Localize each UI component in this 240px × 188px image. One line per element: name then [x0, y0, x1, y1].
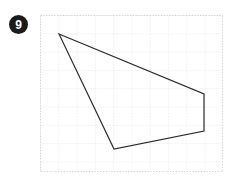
question-number-label: 9 — [15, 19, 22, 31]
dotted-grid — [40, 15, 223, 172]
grid-panel — [40, 15, 223, 172]
question-number-badge: 9 — [9, 15, 28, 34]
worksheet-canvas: 9 — [0, 0, 240, 188]
